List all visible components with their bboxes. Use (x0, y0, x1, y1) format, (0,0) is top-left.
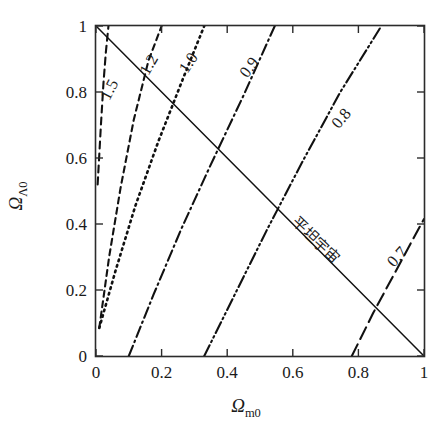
contour-label-1.2: 1.2 (135, 51, 162, 78)
y-axis-tick-labels: 00.20.40.60.81 (66, 17, 88, 366)
contour-label-1.5: 1.5 (96, 76, 122, 103)
contour-curve-0.8 (204, 26, 381, 356)
x-tick-label: 0.2 (151, 363, 172, 382)
contour-value-labels: 1.51.21.00.90.80.7 (96, 49, 411, 271)
contour-label-0.7: 0.7 (383, 243, 411, 271)
x-tick-label: 0 (92, 363, 101, 382)
y-axis-subscript: Λ0 (16, 181, 30, 196)
y-tick-label: 0.2 (66, 281, 87, 300)
contour-label-0.9: 0.9 (235, 53, 263, 81)
y-tick-label: 0 (79, 347, 88, 366)
x-tick-label: 0.6 (282, 363, 303, 382)
plot-annotations: 平坦宇宙 (288, 213, 344, 267)
contour-plot-figure: 00.20.40.60.81 00.20.40.60.81 1.51.21.00… (0, 0, 443, 429)
x-axis-tick-labels: 00.20.40.60.81 (92, 363, 429, 382)
contour-label-1.0: 1.0 (175, 49, 202, 77)
y-axis-symbol: Ω (5, 197, 26, 211)
x-tick-label: 0.8 (348, 363, 369, 382)
x-axis-subscript: m0 (245, 406, 261, 420)
y-tick-label: 0.8 (66, 83, 87, 102)
contour-curve-1.5 (98, 26, 109, 184)
x-axis-symbol: Ω (231, 395, 245, 416)
y-tick-label: 0.6 (66, 149, 87, 168)
y-axis-label: ΩΛ0 (5, 181, 30, 210)
x-tick-label: 1 (420, 363, 429, 382)
annotation-flat-universe: 平坦宇宙 (288, 213, 344, 267)
y-tick-label: 0.4 (66, 215, 88, 234)
contour-curve-0.7 (352, 219, 424, 356)
x-tick-label: 0.4 (217, 363, 239, 382)
x-axis-label: Ωm0 (231, 395, 261, 420)
y-tick-label: 1 (79, 17, 88, 36)
plot-canvas: 00.20.40.60.81 00.20.40.60.81 1.51.21.00… (0, 0, 443, 429)
